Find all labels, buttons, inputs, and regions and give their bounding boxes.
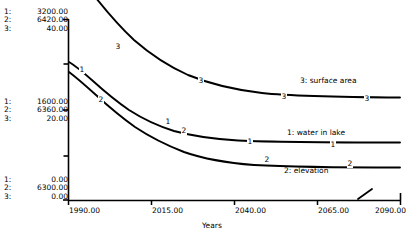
series-2-marker-d: 2 xyxy=(347,160,353,168)
series-1-caption: 1: water in lake xyxy=(287,128,345,137)
x-tick-label-1990: 1990.00 xyxy=(69,206,100,215)
series-2-elevation-line xyxy=(69,72,400,168)
series-1-marker-a: 1 xyxy=(79,66,85,74)
series-1-marker-d: 1 xyxy=(330,141,336,149)
series-2-marker-c: 2 xyxy=(264,156,270,164)
series-2-marker-b: 2 xyxy=(181,127,187,135)
axis-break-slash-icon xyxy=(358,189,372,199)
series-1-water-in-lake-line xyxy=(69,62,400,143)
x-tick-label-2090: 2090.00 xyxy=(375,206,406,215)
series-1-marker-c: 1 xyxy=(247,138,253,146)
series-3-marker-a: 3 xyxy=(115,43,121,51)
series-3-marker-d: 3 xyxy=(364,95,370,103)
chart-canvas: 1: 2: 3: 3200.00 6420.00 40.00 1: 2: 3: … xyxy=(0,0,418,235)
x-axis-title: Years xyxy=(202,221,222,230)
series-2-marker-a: 2 xyxy=(98,96,104,104)
series-3-caption: 3: surface area xyxy=(300,76,357,85)
series-3-marker-c: 3 xyxy=(281,93,287,101)
x-tick-label-2040: 2040.00 xyxy=(235,206,266,215)
x-tick-label-2065: 2065.00 xyxy=(318,206,349,215)
series-3-marker-b: 3 xyxy=(198,77,204,85)
series-1-marker-b: 1 xyxy=(165,118,171,126)
x-tick-label-2015: 2015.00 xyxy=(152,206,183,215)
series-2-caption: 2: elevation xyxy=(284,166,328,175)
plot-area xyxy=(0,0,418,235)
